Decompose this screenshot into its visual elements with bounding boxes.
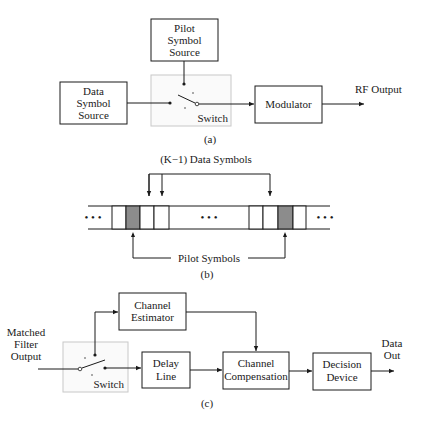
- data-source-line1: Data: [83, 85, 104, 97]
- input-label-line2: Filter: [14, 338, 38, 350]
- pilot-source-line1: Pilot: [174, 22, 195, 34]
- caption-b: (b): [201, 268, 214, 281]
- caption-c: (c): [201, 397, 214, 410]
- data-contact-dot: [168, 101, 171, 104]
- data-out-line2: Out: [384, 349, 401, 361]
- panel-c: Matched Filter Output Switch Channel Est…: [7, 293, 403, 410]
- channel-compensation-line2: Compensation: [224, 370, 288, 382]
- pilot-contact-dot: [182, 82, 185, 85]
- ellipsis-right: • • •: [316, 211, 333, 223]
- pilot-source-line2: Symbol: [167, 34, 201, 46]
- channel-compensation-block: Channel Compensation: [223, 352, 289, 389]
- panel-a: Pilot Symbol Source Data Symbol Source S…: [60, 19, 402, 146]
- delay-line-line1: Delay: [153, 357, 180, 369]
- data-out-line1: Data: [382, 337, 403, 349]
- ellipsis-left: • • •: [84, 211, 101, 223]
- switch-pivot-icon: [195, 102, 199, 106]
- channel-estimator-block: Channel Estimator: [119, 293, 186, 330]
- pilot-symbol-diagram: Pilot Symbol Source Data Symbol Source S…: [0, 0, 421, 422]
- rf-output-label: RF Output: [355, 83, 402, 95]
- data-symbol-source-block: Data Symbol Source: [60, 82, 127, 124]
- delay-line-block: Delay Line: [142, 352, 190, 388]
- decision-device-line1: Decision: [322, 358, 362, 370]
- pilot-symbols-label: Pilot Symbols: [178, 252, 240, 264]
- modulator-block: Modulator: [255, 86, 322, 123]
- decision-device-block: Decision Device: [313, 353, 371, 390]
- switch-c-block: Switch: [38, 342, 128, 392]
- switch-c-label: Switch: [93, 378, 124, 390]
- switch-a-block: Switch: [127, 61, 231, 126]
- delay-line-line2: Line: [156, 370, 176, 382]
- switch-pivot-icon: [78, 367, 82, 371]
- pilot-symbol-source-block: Pilot Symbol Source: [151, 19, 218, 61]
- channel-compensation-line1: Channel: [238, 357, 275, 369]
- panel-b: (K−1) Data Symbols • • • • • • • • •: [84, 153, 333, 281]
- input-label-line3: Output: [11, 350, 42, 362]
- channel-estimator-line2: Estimator: [131, 311, 174, 323]
- data-source-line3: Source: [78, 109, 109, 121]
- data-source-line2: Symbol: [76, 97, 110, 109]
- symbol-frame-strip: • • • • • • • • •: [84, 206, 333, 229]
- channel-estimator-line1: Channel: [134, 299, 171, 311]
- data-symbols-label: (K−1) Data Symbols: [160, 153, 252, 166]
- caption-a: (a): [204, 133, 217, 146]
- switch-a-label: Switch: [197, 112, 228, 124]
- decision-device-line2: Device: [326, 371, 357, 383]
- modulator-label: Modulator: [265, 98, 312, 110]
- pilot-symbol-cell-2: [278, 206, 293, 229]
- pilot-source-line3: Source: [169, 46, 200, 58]
- pilot-symbol-cell-1: [126, 206, 140, 229]
- input-label-line1: Matched: [7, 326, 46, 338]
- ellipsis-middle: • • •: [200, 211, 217, 223]
